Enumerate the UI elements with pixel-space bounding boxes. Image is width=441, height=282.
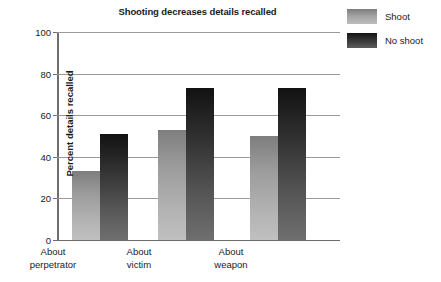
x-category-line1: About	[219, 246, 244, 257]
bar-chart-figure: Shooting decreases details recalled 100 …	[0, 0, 441, 282]
legend-swatch-icon-shoot	[347, 9, 377, 24]
y-tick-label-80: 80	[25, 68, 51, 79]
page-title: Shooting decreases details recalled	[55, 6, 340, 17]
legend-item-no-shoot[interactable]: No shoot	[347, 32, 439, 49]
y-tick-label-100: 100	[25, 27, 51, 38]
legend-item-shoot[interactable]: Shoot	[347, 8, 439, 25]
x-category-label-perpetrator: About perpetrator	[5, 246, 101, 271]
x-category-line2: victim	[91, 259, 187, 272]
legend-swatch-icon-no-shoot	[347, 33, 377, 48]
y-tick-mark-40	[53, 157, 57, 158]
y-tick-mark-100	[53, 32, 57, 33]
y-tick-label-20: 20	[25, 193, 51, 204]
y-tick-mark-80	[53, 74, 57, 75]
legend-label-shoot: Shoot	[385, 11, 410, 22]
bar-shoot-weapon[interactable]	[250, 136, 278, 240]
legend-label-no-shoot: No shoot	[385, 35, 423, 46]
y-axis-tick-labels: 100 80 60 40 20 0	[23, 32, 51, 240]
y-axis-title: Percent details recalled	[64, 50, 75, 198]
y-tick-label-40: 40	[25, 151, 51, 162]
bar-no-shoot-weapon[interactable]	[278, 88, 306, 240]
legend: Shoot No shoot	[347, 8, 439, 56]
y-tick-label-60: 60	[25, 110, 51, 121]
bar-no-shoot-perpetrator[interactable]	[100, 134, 128, 240]
gridline-100	[57, 32, 340, 33]
x-category-label-weapon: About weapon	[183, 246, 279, 271]
bar-shoot-perpetrator[interactable]	[72, 171, 100, 240]
bar-no-shoot-victim[interactable]	[186, 88, 214, 240]
y-tick-mark-60	[53, 115, 57, 116]
bar-shoot-victim[interactable]	[158, 130, 186, 240]
gridline-80	[57, 74, 340, 75]
x-category-label-victim: About victim	[91, 246, 187, 271]
x-category-line1: About	[127, 246, 152, 257]
x-category-line2: weapon	[183, 259, 279, 272]
x-category-line1: About	[41, 246, 66, 257]
plot-area: Percent details recalled	[57, 32, 340, 240]
y-tick-mark-20	[53, 198, 57, 199]
y-tick-mark-0	[53, 240, 57, 241]
y-tick-label-0: 0	[25, 235, 51, 246]
x-category-line2: perpetrator	[5, 259, 101, 272]
